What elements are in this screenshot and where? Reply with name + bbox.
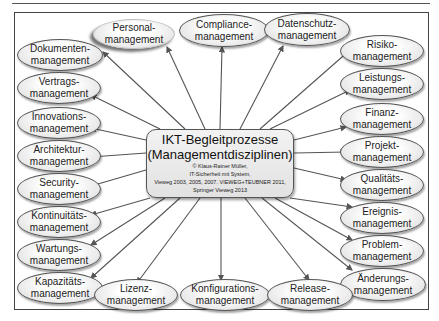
node-label: management <box>353 119 411 131</box>
node-label: Compliance- <box>195 19 253 31</box>
node-lizenzmanagement: Lizenz-management <box>94 279 178 311</box>
node-innovationsmanagement: Innovations-management <box>17 107 101 139</box>
node-label: management <box>353 251 411 263</box>
node-label: management <box>191 295 258 307</box>
node-label: management <box>30 156 88 168</box>
node-securitymanagement: Security-management <box>17 173 101 205</box>
node-risikomanagement: Risiko-management <box>340 35 424 67</box>
node-label: Ereignis- <box>353 206 411 218</box>
node-label: management <box>353 51 411 63</box>
node-dokumentenmanagement: Dokumenten-management <box>17 39 103 71</box>
node-label: management <box>354 285 412 297</box>
node-label: Innovations- <box>30 111 88 123</box>
node-label: management <box>195 31 253 43</box>
node-label: management <box>107 295 165 307</box>
node-problemmanagement: Problem-management <box>340 235 424 267</box>
node-label: Kapazitäts- <box>31 276 89 288</box>
node-datenschutzmanagement: Datenschutz-management <box>264 13 350 46</box>
node-label: Dokumenten- <box>30 43 90 55</box>
node-label: Kontinuitäts- <box>30 210 88 222</box>
node-qualitaetsmanagement: Qualitäts-management <box>340 169 424 201</box>
node-label: management <box>105 34 163 46</box>
node-label: Konfigurations- <box>191 283 258 295</box>
node-label: management <box>30 88 88 100</box>
node-label: Projekt- <box>353 140 411 152</box>
node-releasemanagement: Release-management <box>267 279 353 311</box>
node-label: Änderungs- <box>354 273 412 285</box>
node-label: management <box>31 288 89 300</box>
node-label: management <box>353 185 411 197</box>
node-label: Datenschutz- <box>278 18 337 30</box>
node-label: management <box>278 30 337 42</box>
node-label: management <box>353 152 411 164</box>
node-architekturmanagement: Architektur-management <box>17 140 101 172</box>
node-label: management <box>353 84 411 96</box>
node-label: management <box>30 189 88 201</box>
node-ereignismanagement: Ereignis-management <box>340 202 424 234</box>
node-compliancemanagement: Compliance-management <box>179 14 269 47</box>
node-label: Personal- <box>105 22 163 34</box>
node-leistungsmanagement: Leistungs-management <box>340 68 424 100</box>
node-label: Qualitäts- <box>353 173 411 185</box>
node-label: Security- <box>30 177 88 189</box>
node-label: Finanz- <box>353 107 411 119</box>
node-label: Leistungs- <box>353 72 411 84</box>
node-label: Architektur- <box>30 144 88 156</box>
node-label: Vertrags- <box>30 76 88 88</box>
node-label: management <box>30 222 88 234</box>
node-label: Wartungs- <box>30 243 88 255</box>
credit-book: IT-Sicherheit mit System, <box>147 170 293 178</box>
node-projektmanagement: Projekt-management <box>340 136 424 168</box>
node-kontinuitaetsmanagement: Kontinuitäts-management <box>17 206 101 238</box>
node-label: management <box>353 218 411 230</box>
node-label: Problem- <box>353 239 411 251</box>
node-personalmanagement: Personal-management <box>93 19 175 49</box>
node-kapazitaetsmanagement: Kapazitäts-management <box>17 272 103 304</box>
node-label: management <box>30 55 90 67</box>
node-vertragsmanagement: Vertrags-management <box>17 72 101 104</box>
center-box-ikt-begleitprozesse: IKT-Begleitprozesse (Managementdisziplin… <box>146 129 294 198</box>
node-label: Lizenz- <box>107 283 165 295</box>
node-finanzmanagement: Finanz-management <box>340 103 424 135</box>
center-title: IKT-Begleitprozesse <box>147 132 293 147</box>
node-konfigurationsmanagement: Konfigurations-management <box>180 279 270 311</box>
node-wartungsmanagement: Wartungs-management <box>17 239 101 271</box>
credit-publisher: Springer Vieweg 2013 <box>147 186 293 194</box>
credit-editions: Vieweg 2003, 2005, 2007. VIEWEG+TEUBNER … <box>147 178 293 186</box>
node-label: Release- <box>281 283 339 295</box>
node-label: management <box>30 123 88 135</box>
center-subtitle: (Managementdisziplinen) <box>147 147 293 162</box>
node-label: management <box>281 295 339 307</box>
credit-author: © Klaus-Rainer Müller, <box>147 162 293 170</box>
node-label: management <box>30 255 88 267</box>
node-label: Risiko- <box>353 39 411 51</box>
